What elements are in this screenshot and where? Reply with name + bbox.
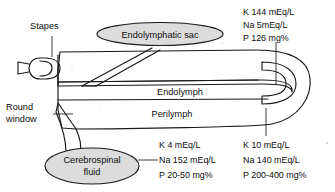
stapes-stem xyxy=(18,62,29,74)
perilymph-na-value: Na 140 mEq/L xyxy=(243,155,300,165)
scan-speckle xyxy=(326,142,328,144)
scan-speckle xyxy=(63,92,64,93)
csf-ellipse-group xyxy=(45,148,139,184)
stapes-inner-outline xyxy=(40,61,52,76)
csf-k-value: K 4 mEq/L xyxy=(159,140,201,150)
label-round-window-line2: window xyxy=(5,114,37,124)
composition-block-endolymph: K 144 mEq/L Na 5mEq/L P 126 mg% xyxy=(243,7,294,43)
endolymph-upper-boundary xyxy=(58,80,258,82)
round-window-neck xyxy=(56,103,81,152)
scan-speckle xyxy=(221,42,222,43)
label-stapes: Stapes xyxy=(30,21,59,31)
label-csf-line1: Cerebrospinal xyxy=(63,155,120,165)
perilymph-p-value: P 200-400 mg% xyxy=(243,170,307,180)
cochlear-apex-hollow xyxy=(262,62,296,104)
endolymph-k-value: K 144 mEq/L xyxy=(243,7,294,17)
endolymph-lower-boundary xyxy=(58,99,268,100)
label-endolymph: Endolymph xyxy=(157,87,203,97)
label-csf-line2: fluid xyxy=(84,167,101,177)
csf-na-value: Na 152 mEq/L xyxy=(159,155,216,165)
endolymph-na-value: Na 5mEq/L xyxy=(243,20,287,30)
perilymph-k-value: K 10 mEq/L xyxy=(243,140,289,150)
scan-speckle xyxy=(99,109,100,110)
csf-p-value: P 20-50 mg% xyxy=(159,170,213,180)
composition-block-csf: K 4 mEq/L Na 152 mEq/L P 20-50 mg% xyxy=(159,140,216,180)
csf-ellipse xyxy=(45,148,139,184)
endolymph-p-value: P 126 mg% xyxy=(243,33,289,43)
label-round-window-line1: Round xyxy=(6,102,33,112)
label-perilymph: Perilymph xyxy=(152,109,193,119)
composition-block-perilymph: K 10 mEq/L Na 140 mEq/L P 200-400 mg% xyxy=(243,140,307,180)
label-endolymphatic-sac: Endolymphatic sac xyxy=(121,30,199,40)
cochlea-diagram: Stapes Round window Endolymphatic sac En… xyxy=(0,0,335,192)
scan-speckle xyxy=(71,68,72,69)
endolymphatic-duct-line-a xyxy=(82,48,152,86)
diagram-canvas: Stapes Round window Endolymphatic sac En… xyxy=(0,0,335,192)
